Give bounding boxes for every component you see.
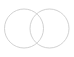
venn-diagram [0,0,74,57]
canvas-background [0,0,74,57]
diagram-canvas [0,0,74,57]
